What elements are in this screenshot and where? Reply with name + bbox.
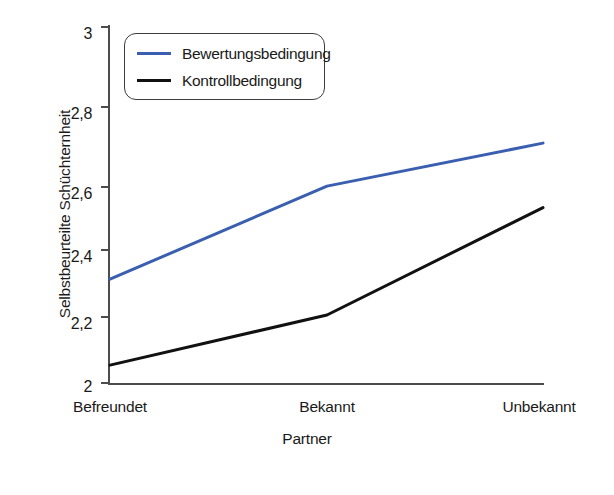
legend-label: Kontrollbedingung [182, 72, 302, 90]
series-line-kontrollbedingung [110, 208, 543, 366]
y-tick-2: 2 [32, 378, 92, 379]
y-tick-2-6: 2,6 [32, 185, 92, 186]
black-line-swatch [137, 79, 171, 82]
y-tick-label: 2,4 [32, 248, 92, 266]
x-axis-title: Partner [0, 430, 614, 448]
y-tick-label: 2,6 [32, 185, 92, 203]
y-tick-label: 2,8 [32, 105, 92, 123]
y-tick-2-8: 2,8 [32, 105, 92, 106]
y-tick-label: 2 [32, 378, 92, 396]
y-axis-line [108, 25, 110, 384]
y-tick-2-4: 2,4 [32, 248, 92, 249]
y-tick-2-2: 2,2 [32, 315, 92, 316]
x-tick-label-unbekannt: Unbekannt [502, 398, 575, 416]
y-tick-label: 2,2 [32, 315, 92, 333]
x-axis-line [108, 383, 544, 385]
series-line-bewertungsbedingung [110, 143, 543, 279]
legend-item-bewertungsbedingung: Bewertungsbedingung [125, 40, 324, 67]
x-tick-label-befreundet: Befreundet [73, 398, 147, 416]
x-tick-label-bekannt: Bekannt [299, 398, 354, 416]
blue-line-swatch [137, 52, 171, 55]
legend-label: Bewertungsbedingung [182, 45, 331, 63]
y-tick-3: 3 [32, 25, 92, 26]
y-tick-label: 3 [32, 25, 92, 43]
chart-legend: Bewertungsbedingung Kontrollbedingung [124, 33, 325, 100]
chart-figure: Selbstbeurteilte Schüchternheit 3 2,8 2,… [0, 0, 614, 495]
legend-item-kontrollbedingung: Kontrollbedingung [125, 67, 324, 94]
